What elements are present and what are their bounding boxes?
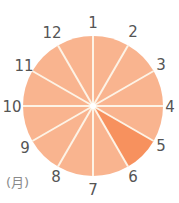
month-label-11: 11 (14, 59, 33, 74)
wheel-center (90, 103, 96, 109)
month-label-4: 4 (165, 100, 175, 115)
month-label-12: 12 (42, 26, 61, 41)
month-label-6: 6 (128, 170, 138, 185)
month-label-8: 8 (51, 170, 61, 185)
month-label-10: 10 (2, 100, 21, 115)
month-label-7: 7 (88, 183, 98, 198)
month-label-9: 9 (20, 141, 30, 156)
month-label-5: 5 (156, 139, 166, 154)
month-label-2: 2 (128, 25, 138, 40)
month-label-1: 1 (88, 16, 98, 31)
unit-label: (月) (6, 176, 29, 189)
month-label-3: 3 (156, 58, 166, 73)
